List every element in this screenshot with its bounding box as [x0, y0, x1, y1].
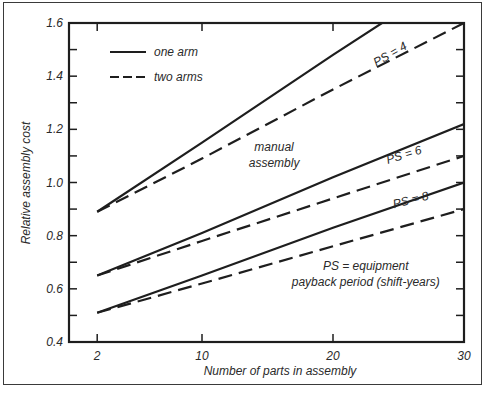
annotation-label: PS = 6 [384, 143, 423, 167]
series-line [97, 23, 464, 212]
x-tick-label: 10 [195, 349, 209, 363]
series-line [97, 0, 464, 212]
y-tick-label: 1.6 [46, 16, 63, 30]
y-tick-label: 0.8 [46, 229, 63, 243]
y-tick-label: 1.0 [46, 176, 63, 190]
y-tick-label: 0.6 [46, 282, 63, 296]
x-tick-label: 20 [325, 349, 340, 363]
plot-axes: 0.40.60.81.01.21.41.62102030 [46, 16, 471, 363]
annotation-label: PS = equipment [323, 259, 409, 273]
x-axis-title: Number of parts in assembly [204, 364, 358, 378]
legend: one armtwo arms [110, 45, 203, 84]
legend-label: two arms [154, 70, 203, 84]
line-chart: 0.40.60.81.01.21.41.62102030 PS = 4PS = … [0, 0, 486, 395]
y-axis-title: Relative assembly cost [19, 121, 33, 244]
annotation-label: assembly [249, 156, 301, 170]
y-tick-label: 1.2 [46, 122, 63, 136]
series-line [97, 209, 464, 313]
annotation-label: manual [254, 140, 294, 154]
x-tick-label: 30 [457, 349, 471, 363]
annotation-label: payback period (shift-years) [291, 275, 440, 289]
annotation-label: PS = 4 [371, 39, 410, 69]
annotations: PS = 4PS = 6PS = 8manualassemblyPS = equ… [249, 39, 440, 289]
plot-area-border [69, 23, 464, 342]
y-tick-label: 1.4 [46, 69, 63, 83]
legend-label: one arm [154, 45, 198, 59]
x-tick-label: 2 [93, 349, 101, 363]
annotation-label: PS = 8 [391, 189, 430, 211]
series-line [97, 156, 464, 276]
y-tick-label: 0.4 [46, 335, 63, 349]
